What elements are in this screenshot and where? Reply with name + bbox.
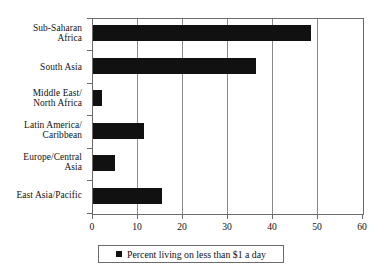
plot-area — [92, 18, 364, 215]
y-axis-label-line: Europe/Central — [0, 152, 82, 162]
bar-east-asia-pacific — [93, 188, 162, 204]
x-axis-tick — [317, 214, 318, 219]
x-axis-tick-label: 30 — [212, 221, 242, 232]
y-axis-label-south-asia: South Asia — [0, 62, 82, 72]
x-axis-tick — [92, 214, 93, 219]
x-axis-tick — [137, 214, 138, 219]
bar-chart: Sub-Saharan Africa South Asia Middle Eas… — [0, 0, 384, 271]
y-axis-label-line: North Africa — [0, 98, 82, 108]
x-axis-tick — [227, 214, 228, 219]
y-axis-label-line: Africa — [0, 33, 82, 43]
y-axis-label-line: Sub-Saharan — [0, 23, 82, 33]
y-axis-label-line: Middle East/ — [0, 88, 82, 98]
gridline-40 — [272, 19, 273, 214]
x-axis-tick-label: 60 — [347, 221, 377, 232]
y-axis-category-labels: Sub-Saharan Africa South Asia Middle Eas… — [0, 18, 82, 213]
y-axis-label-latin-america-caribbean: Latin America/ Caribbean — [0, 120, 82, 140]
bar-sub-saharan-africa — [93, 25, 311, 41]
y-axis-label-east-asia-pacific: East Asia/Pacific — [0, 190, 82, 200]
bar-south-asia — [93, 58, 256, 74]
bar-europe-central-asia — [93, 155, 115, 171]
y-axis-label-line: Asia — [0, 162, 82, 172]
gridline-50 — [317, 19, 318, 214]
x-axis-tick-label: 50 — [302, 221, 332, 232]
gridline-20 — [182, 19, 183, 214]
y-axis-label-middle-east-north-africa: Middle East/ North Africa — [0, 88, 82, 108]
legend-swatch-icon — [116, 251, 122, 257]
x-axis-tick — [182, 214, 183, 219]
legend-label: Percent living on less than $1 a day — [127, 249, 266, 260]
y-axis-label-line: Latin America/ — [0, 120, 82, 130]
x-axis-tick-label: 40 — [257, 221, 287, 232]
y-axis-label-line: East Asia/Pacific — [0, 190, 82, 200]
x-axis-tick-label: 20 — [167, 221, 197, 232]
gridline-30 — [227, 19, 228, 214]
gridline-10 — [137, 19, 138, 214]
y-axis-label-line: South Asia — [0, 62, 82, 72]
x-axis-tick — [272, 214, 273, 219]
y-axis-label-sub-saharan-africa: Sub-Saharan Africa — [0, 23, 82, 43]
bar-latin-america-caribbean — [93, 123, 144, 139]
x-axis-tick-label: 0 — [77, 221, 107, 232]
chart-legend: Percent living on less than $1 a day — [98, 245, 284, 263]
bar-middle-east-north-africa — [93, 90, 102, 106]
y-axis-label-europe-central-asia: Europe/Central Asia — [0, 152, 82, 172]
y-axis-label-line: Caribbean — [0, 130, 82, 140]
x-axis-tick — [362, 214, 363, 219]
x-axis-tick-label: 10 — [122, 221, 152, 232]
